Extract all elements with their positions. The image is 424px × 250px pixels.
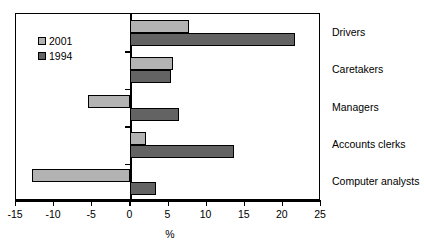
bar-2001-caretakers	[130, 57, 173, 70]
bar-chart-figure: -15-10-50510152025 % DriversCaretakersMa…	[0, 0, 424, 250]
x-tick	[244, 200, 245, 206]
x-tick-label: -5	[73, 208, 109, 220]
bar-2001-accounts-clerks	[130, 132, 145, 145]
category-label-drivers: Drivers	[332, 26, 365, 38]
category-label-accounts-clerks: Accounts clerks	[332, 138, 406, 150]
legend-label-1994: 1994	[49, 50, 72, 62]
legend-item-2001: 2001	[38, 33, 72, 48]
bar-1994-drivers	[130, 33, 295, 46]
x-tick	[206, 200, 207, 206]
x-tick-label: 25	[302, 208, 338, 220]
x-tick-label: -15	[0, 208, 33, 220]
bar-1994-managers	[130, 108, 179, 121]
legend-label-2001: 2001	[49, 35, 72, 47]
x-tick-label: 20	[264, 208, 300, 220]
x-tick	[15, 200, 16, 206]
category-tick	[125, 126, 130, 128]
category-label-caretakers: Caretakers	[332, 63, 383, 75]
legend-swatch-icon-1994	[38, 52, 46, 60]
x-tick	[53, 200, 54, 206]
x-tick-label: 15	[226, 208, 262, 220]
category-tick	[125, 164, 130, 166]
bar-1994-computer-analysts	[130, 182, 155, 195]
x-tick-label: 0	[111, 208, 147, 220]
category-tick	[125, 51, 130, 53]
legend-swatch-icon-2001	[38, 37, 46, 45]
bar-1994-caretakers	[130, 70, 170, 83]
bar-2001-managers	[88, 95, 131, 108]
category-tick	[125, 89, 130, 91]
x-tick	[320, 200, 321, 206]
x-tick	[168, 200, 169, 206]
x-tick-label: -10	[35, 208, 71, 220]
bar-1994-accounts-clerks	[130, 145, 234, 158]
category-label-computer-analysts: Computer analysts	[332, 175, 420, 187]
x-axis-title: %	[0, 228, 340, 240]
bar-2001-drivers	[130, 20, 189, 33]
x-tick	[129, 200, 130, 206]
x-tick	[282, 200, 283, 206]
category-label-managers: Managers	[332, 101, 379, 113]
x-tick	[91, 200, 92, 206]
x-tick-label: 10	[188, 208, 224, 220]
chart-legend: 2001 1994	[38, 33, 72, 63]
x-tick-label: 5	[150, 208, 186, 220]
legend-item-1994: 1994	[38, 48, 72, 63]
bar-2001-computer-analysts	[32, 169, 130, 182]
